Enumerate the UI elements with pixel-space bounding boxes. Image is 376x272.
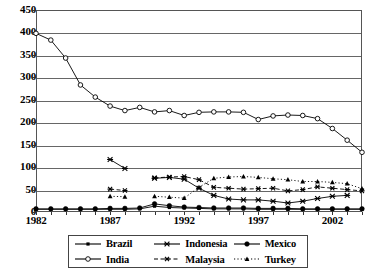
gridline: [37, 191, 361, 192]
x-axis-tick-label: 2002: [312, 214, 352, 226]
x-axis-tick-mark: [155, 212, 156, 215]
x-axis-tick-mark: [80, 212, 81, 215]
gridline: [37, 56, 361, 57]
y-axis-tick-mark: [32, 122, 36, 123]
y-axis-tick-label: 450: [2, 4, 36, 15]
x-axis-tick-mark: [318, 212, 319, 215]
x-axis-tick-label: 1997: [238, 214, 278, 226]
y-axis-tick-mark: [32, 100, 36, 101]
legend-label: Mexico: [265, 238, 296, 249]
gridline: [37, 78, 361, 79]
x-axis-tick-mark: [288, 212, 289, 215]
legend-swatch-triangle-icon: [232, 253, 262, 265]
x-axis-tick-mark: [258, 212, 259, 215]
y-axis-tick-label: 200: [2, 116, 36, 127]
legend-item-malaysia[interactable]: Malaysia: [148, 253, 227, 265]
x-axis-tick-label: 1982: [16, 214, 56, 226]
legend-item-turkey[interactable]: Turkey: [228, 253, 307, 265]
legend-label: Indonesia: [185, 238, 227, 249]
x-axis-tick-mark: [95, 212, 96, 215]
gridline: [37, 123, 361, 124]
gridline: [37, 101, 361, 102]
legend-item-india[interactable]: India: [69, 253, 148, 265]
legend-label: Brazil: [106, 238, 132, 249]
y-axis-tick-label: 250: [2, 94, 36, 105]
plot-area: [36, 10, 362, 212]
x-axis-tick-label: 1987: [90, 214, 130, 226]
legend-swatch-filled-circle-icon: [232, 238, 262, 250]
y-axis-tick-label: 100: [2, 161, 36, 172]
y-axis-tick-mark: [32, 77, 36, 78]
legend-item-indonesia[interactable]: Indonesia: [148, 238, 227, 250]
x-axis-tick-mark: [273, 212, 274, 215]
y-axis-tick-label: 150: [2, 139, 36, 150]
x-axis-tick-mark: [199, 212, 200, 215]
gridline: [37, 168, 361, 169]
x-axis-tick-mark: [66, 212, 67, 215]
x-axis-tick-label: 1992: [164, 214, 204, 226]
y-axis-tick-label: 350: [2, 49, 36, 60]
line-chart: 450400350300250200150100500 198219871992…: [0, 0, 376, 272]
legend-label: India: [106, 254, 129, 265]
legend-swatch-asterisk-icon: [152, 253, 182, 265]
legend-item-brazil[interactable]: Brazil: [69, 238, 148, 250]
x-axis-tick-mark: [362, 212, 363, 215]
y-axis-tick-mark: [32, 145, 36, 146]
x-axis-tick-mark: [51, 212, 52, 215]
y-axis-tick-label: 50: [2, 184, 36, 195]
y-axis-tick-mark: [32, 32, 36, 33]
x-axis-tick-mark: [110, 212, 111, 215]
legend: BrazilIndonesiaMexicoIndiaMalaysiaTurkey: [68, 235, 308, 268]
legend-label: Malaysia: [185, 254, 224, 265]
x-axis-tick-mark: [332, 212, 333, 215]
x-axis-tick-mark: [140, 212, 141, 215]
legend-label: Turkey: [265, 254, 296, 265]
x-axis-tick-mark: [184, 212, 185, 215]
legend-swatch-filled-diamond-icon: [73, 238, 103, 250]
legend-swatch-x-icon: [152, 238, 182, 250]
x-axis-tick-mark: [169, 212, 170, 215]
y-axis-tick-mark: [32, 167, 36, 168]
x-axis-tick-mark: [125, 212, 126, 215]
gridline: [37, 146, 361, 147]
legend-item-mexico[interactable]: Mexico: [228, 238, 307, 250]
y-axis-tick-label: 400: [2, 26, 36, 37]
y-axis-tick-mark: [32, 55, 36, 56]
y-axis-tick-mark: [32, 10, 36, 11]
x-axis-tick-mark: [303, 212, 304, 215]
x-axis-tick-mark: [229, 212, 230, 215]
gridline: [37, 33, 361, 34]
x-axis-tick-mark: [36, 212, 37, 215]
x-axis-tick-mark: [347, 212, 348, 215]
x-axis-tick-mark: [243, 212, 244, 215]
legend-swatch-open-circle-icon: [73, 253, 103, 265]
y-axis-tick-label: 300: [2, 71, 36, 82]
y-axis-tick-mark: [32, 190, 36, 191]
x-axis-tick-mark: [214, 212, 215, 215]
